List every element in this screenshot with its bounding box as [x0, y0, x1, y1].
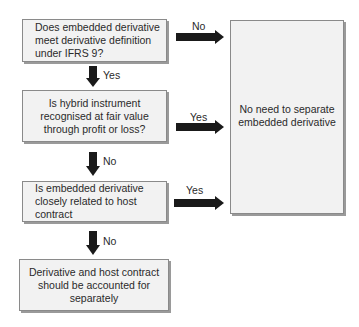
question-text-derivative-definition: Does embedded derivative meet derivative…	[23, 21, 166, 60]
arrow-label-q3-no: No	[103, 235, 116, 247]
question-text-fair-value: Is hybrid instrument recognised at fair …	[23, 97, 166, 136]
result-text-no-separation: No need to separate embedded derivative	[231, 103, 343, 129]
question-box-closely-related: Is embedded derivative closely related t…	[22, 181, 167, 222]
down-arrow-icon	[86, 231, 100, 255]
question-text-closely-related: Is embedded derivative closely related t…	[23, 182, 166, 221]
arrow-label-q2-no: No	[103, 155, 116, 167]
right-arrow-icon	[176, 120, 224, 134]
right-arrow-icon	[176, 30, 224, 44]
question-box-derivative-definition: Does embedded derivative meet derivative…	[22, 19, 167, 62]
result-box-no-separation: No need to separate embedded derivative	[230, 20, 344, 214]
result-box-account-separately: Derivative and host contract should be a…	[19, 259, 169, 311]
arrow-label-q1-yes: Yes	[103, 69, 120, 81]
result-text-account-separately: Derivative and host contract should be a…	[20, 266, 168, 305]
arrow-label-q3-yes: Yes	[186, 184, 203, 196]
right-arrow-icon	[174, 196, 224, 210]
question-box-fair-value: Is hybrid instrument recognised at fair …	[22, 90, 167, 142]
down-arrow-icon	[86, 152, 100, 176]
down-arrow-icon	[86, 66, 100, 87]
